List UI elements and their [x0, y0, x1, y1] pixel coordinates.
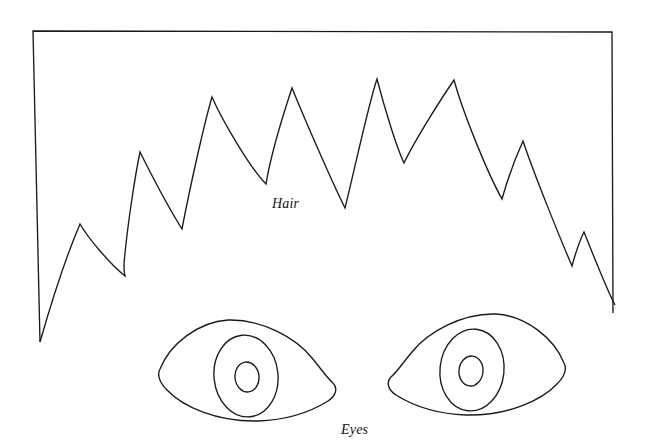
hair-label: Hair	[272, 196, 299, 212]
left-eye-iris	[210, 332, 282, 420]
right-eye-pupil	[457, 355, 484, 387]
eyes-label: Eyes	[341, 422, 368, 438]
left-eye-pupil	[233, 361, 260, 393]
right-eye-iris	[436, 326, 508, 414]
figure-canvas	[0, 0, 645, 446]
hair-outline	[40, 79, 615, 342]
frame-border	[33, 31, 613, 342]
